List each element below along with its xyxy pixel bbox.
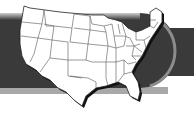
us-map-banner-graphic xyxy=(0,0,194,113)
us-map-banner-svg xyxy=(0,0,194,113)
